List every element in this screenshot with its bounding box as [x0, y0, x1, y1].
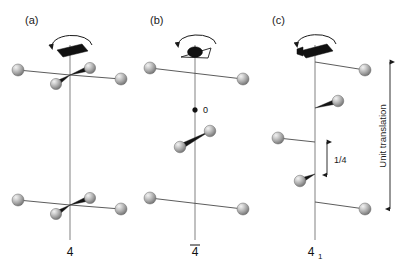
atom-sphere: [237, 203, 249, 215]
symmetry-axes-figure: (a): [0, 0, 411, 268]
atom-sphere: [115, 73, 127, 85]
atom-sphere: [12, 64, 24, 76]
rotation-arrow-icon: [178, 35, 216, 46]
screw-axis-icon: [300, 44, 333, 58]
atom-sphere: [359, 203, 371, 215]
four-fold-axis-icon: [57, 44, 88, 57]
panel-b-upper-atom-group: [144, 62, 249, 85]
four-bar-oval-icon: [188, 47, 203, 57]
panel-b-lower-atom-group: [144, 192, 249, 215]
atom-sphere: [84, 62, 95, 73]
atom-sphere: [359, 64, 371, 76]
unit-translation-dimension: Unit translation: [377, 62, 390, 209]
atom-sphere: [174, 141, 186, 153]
atom-sphere: [12, 194, 24, 206]
screw-axis-tail-icon: [297, 47, 303, 56]
panel-b-axis-symbol-label: 4: [192, 245, 199, 259]
bond-line: [315, 62, 365, 70]
atom-sphere: [144, 62, 156, 74]
bond-line: [70, 205, 121, 209]
atom-sphere: [272, 132, 284, 144]
panel-c-atom-group: [272, 62, 371, 215]
atom-sphere: [144, 192, 156, 204]
bond-line: [150, 68, 243, 79]
figure-canvas: (a): [0, 0, 411, 268]
panel-c-label: (c): [272, 14, 285, 26]
bond-line: [18, 200, 70, 205]
bond-line: [150, 198, 243, 209]
rotation-arrow-icon: [297, 35, 336, 46]
quarter-dimension-label: 1/4: [334, 155, 347, 165]
panel-c-axis-symbol-label: 4: [308, 245, 315, 259]
panel-c: (c) 1/4: [272, 14, 390, 261]
quarter-translation-dimension: 1/4: [327, 142, 347, 175]
bond-line: [18, 70, 70, 75]
atom-sphere: [294, 175, 306, 187]
bond-line: [315, 202, 365, 209]
atom-sphere: [332, 95, 344, 107]
inversion-centre-dot: [193, 108, 198, 113]
inversion-centre-label: 0: [203, 105, 208, 115]
panel-b-axis-symbol-label-group: 4: [190, 245, 200, 259]
atom-sphere: [237, 73, 249, 85]
atom-sphere: [50, 208, 61, 219]
panel-c-axis-symbol-subscript: 1: [318, 252, 323, 261]
unit-translation-label: Unit translation: [377, 104, 388, 167]
rotation-arrow-icon: [52, 35, 92, 48]
panel-c-axis-symbol-label-group: 4 1: [308, 245, 323, 261]
panel-a-axis-symbol-label: 4: [67, 245, 74, 259]
bond-line: [70, 75, 121, 79]
atom-sphere: [204, 125, 216, 137]
atom-sphere: [115, 203, 127, 215]
panel-a-label: (a): [25, 14, 38, 26]
panel-b: (b) 0: [144, 14, 249, 259]
panel-b-label: (b): [150, 14, 163, 26]
panel-a: (a): [12, 14, 127, 259]
atom-sphere: [50, 78, 61, 89]
atom-sphere: [84, 192, 95, 203]
